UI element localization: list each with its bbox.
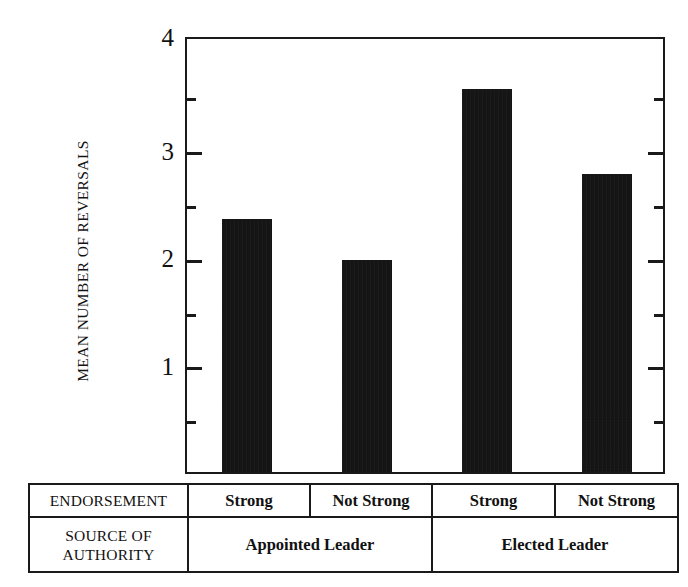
y-tick-label-2: 2 [140,246,174,271]
bar-appointed-strong [222,219,272,472]
y-tick-minor-0-5-right [654,421,663,424]
y-tick-minor-3-5 [187,98,196,101]
bar-appointed-not-strong [342,260,392,472]
y-tick-minor-1-5 [187,314,196,317]
bar-elected-not-strong [582,174,632,472]
y-tick-minor-2-5 [187,206,196,209]
row-header-endorsement: ENDORSEMENT [29,484,188,517]
row-header-source-line1: SOURCE OF [30,526,187,545]
row-header-source-line2: AUTHORITY [30,545,187,564]
table-row-source-of-authority: SOURCE OF AUTHORITY Appointed Leader Ele… [29,517,678,572]
row-header-source-of-authority: SOURCE OF AUTHORITY [29,517,188,572]
cell-group-elected-leader: Elected Leader [432,517,678,572]
category-axis-table: ENDORSEMENT Strong Not Strong Strong Not… [28,483,679,573]
y-tick-minor-0-5 [187,421,196,424]
y-axis-title: MEAN NUMBER OF REVERSALS [74,101,92,421]
y-tick-label-1: 1 [140,354,174,379]
cell-endorsement-appointed-not-strong: Not Strong [310,484,432,517]
y-tick-major-1 [187,367,202,370]
y-tick-major-3-right [648,152,663,155]
cell-group-appointed-leader: Appointed Leader [188,517,432,572]
y-tick-minor-1-5-right [654,314,663,317]
y-tick-major-2-right [648,260,663,263]
cell-endorsement-elected-not-strong: Not Strong [555,484,678,517]
y-tick-label-4: 4 [140,25,174,50]
cell-endorsement-appointed-strong: Strong [188,484,310,517]
table-row-endorsement: ENDORSEMENT Strong Not Strong Strong Not… [29,484,678,517]
bar-chart-figure: MEAN NUMBER OF REVERSALS 4 3 2 1 ENDOR [0,0,688,587]
y-tick-major-1-right [648,367,663,370]
cell-endorsement-elected-strong: Strong [432,484,555,517]
plot-area [185,37,665,474]
y-tick-minor-2-5-right [654,206,663,209]
y-tick-major-2 [187,260,202,263]
y-tick-minor-3-5-right [654,98,663,101]
bar-elected-strong [462,89,512,472]
y-tick-label-3: 3 [140,139,174,164]
y-tick-major-3 [187,152,202,155]
